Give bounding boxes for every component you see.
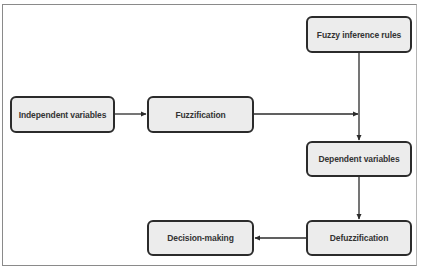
- node-label: Fuzzy inference rules: [317, 30, 401, 40]
- node-dependent-variables: Dependent variables: [306, 141, 412, 177]
- node-label: Dependent variables: [318, 154, 399, 164]
- node-fuzzification: Fuzzification: [147, 96, 254, 133]
- node-fuzzy-inference-rules: Fuzzy inference rules: [306, 16, 412, 53]
- node-decision-making: Decision-making: [147, 220, 254, 256]
- node-label: Defuzzification: [330, 233, 388, 243]
- node-label: Decision-making: [167, 233, 234, 243]
- node-defuzzification: Defuzzification: [306, 220, 412, 256]
- node-independent-variables: Independent variables: [10, 96, 115, 133]
- node-label: Independent variables: [19, 110, 107, 120]
- node-label: Fuzzification: [175, 110, 225, 120]
